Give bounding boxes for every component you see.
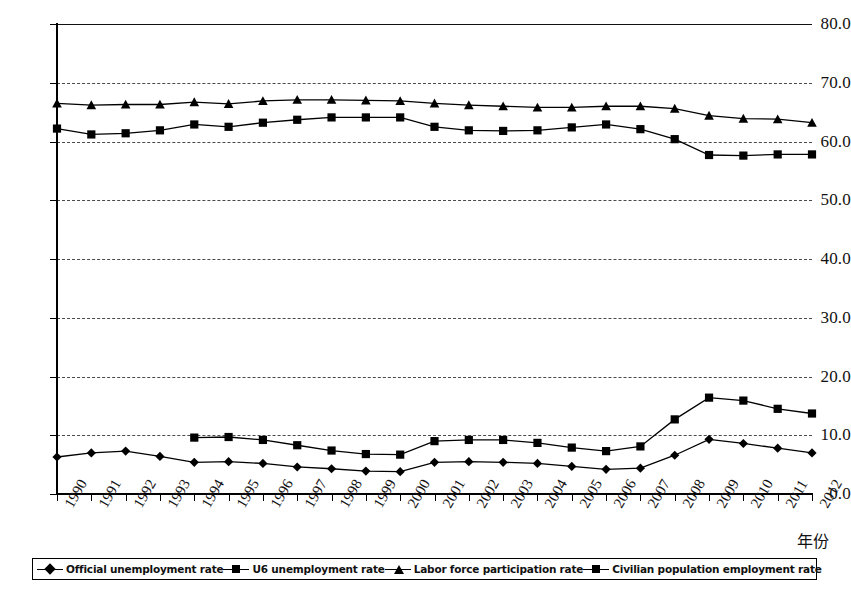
legend-item-0[interactable]: Official unemployment rate — [37, 564, 223, 575]
data-point-marker — [568, 443, 576, 451]
x-tick-mark — [675, 494, 676, 501]
x-tick-mark — [537, 494, 538, 501]
series-line — [57, 100, 812, 123]
data-point-marker — [498, 101, 508, 110]
data-point-marker — [327, 464, 336, 473]
legend-item-3[interactable]: Civilian population employment rate — [583, 564, 821, 575]
data-point-marker — [258, 459, 267, 468]
legend-label: Official unemployment rate — [66, 564, 223, 575]
y-tick-label: 30.0 — [799, 309, 851, 326]
x-tick-mark — [778, 494, 779, 501]
data-point-marker — [293, 441, 301, 449]
data-point-marker — [122, 129, 130, 137]
x-tick-mark — [126, 494, 127, 501]
data-point-marker — [155, 452, 164, 461]
data-point-marker — [465, 126, 473, 134]
x-tick-mark — [194, 494, 195, 501]
data-point-marker — [121, 447, 130, 456]
data-point-marker — [430, 99, 440, 108]
series-0 — [52, 435, 816, 477]
series-1 — [190, 394, 816, 459]
data-point-marker — [292, 95, 302, 104]
data-point-marker — [670, 104, 680, 113]
data-point-marker — [533, 459, 542, 468]
gridline — [57, 377, 812, 378]
legend-item-1[interactable]: U6 unemployment rate — [223, 564, 384, 575]
legend-item-2[interactable]: Labor force participation rate — [385, 564, 584, 575]
x-tick-mark — [709, 494, 710, 501]
data-point-marker — [808, 409, 816, 417]
data-point-marker — [361, 466, 370, 475]
x-tick-mark — [57, 494, 58, 501]
x-tick-mark — [743, 494, 744, 501]
data-point-marker — [362, 113, 370, 121]
data-point-marker — [671, 415, 679, 423]
x-tick-mark — [640, 494, 641, 501]
x-tick-mark — [263, 494, 264, 501]
data-point-marker — [362, 450, 370, 458]
line-chart: 0.010.020.030.040.050.060.070.080.0 1990… — [0, 0, 851, 556]
data-point-marker — [602, 447, 610, 455]
data-point-marker — [361, 96, 371, 105]
x-tick-mark — [332, 494, 333, 501]
series-2 — [52, 95, 817, 127]
data-point-marker — [739, 439, 748, 448]
x-tick-mark — [503, 494, 504, 501]
gridline — [57, 83, 812, 84]
x-tick-mark — [297, 494, 298, 501]
x-tick-mark — [229, 494, 230, 501]
square-marker — [223, 564, 249, 575]
data-point-marker — [327, 113, 335, 121]
data-point-marker — [533, 103, 543, 112]
data-point-marker — [636, 101, 646, 110]
data-point-marker — [464, 457, 473, 466]
data-point-marker — [739, 396, 747, 404]
data-point-marker — [258, 96, 268, 105]
data-point-marker — [499, 127, 507, 135]
data-point-marker — [293, 116, 301, 124]
data-point-marker — [636, 464, 645, 473]
y-tick-label: 20.0 — [799, 368, 851, 385]
data-point-marker — [774, 150, 782, 158]
x-tick-mark — [435, 494, 436, 501]
y-tick-label: 10.0 — [799, 426, 851, 443]
data-point-marker — [567, 462, 576, 471]
data-point-marker — [396, 467, 405, 476]
data-point-marker — [533, 126, 541, 134]
gridline — [57, 318, 812, 319]
data-point-marker — [87, 100, 97, 109]
data-point-marker — [774, 405, 782, 413]
x-tick-mark — [91, 494, 92, 501]
data-point-marker — [259, 119, 267, 127]
triangle-marker — [385, 564, 411, 575]
y-tick-label: 80.0 — [799, 15, 851, 32]
diamond-marker-glyph — [44, 563, 55, 574]
y-tick-label: 40.0 — [799, 250, 851, 267]
data-point-marker — [807, 118, 817, 127]
data-point-marker — [601, 465, 610, 474]
data-point-marker — [396, 451, 404, 459]
y-axis-line — [56, 23, 58, 495]
x-tick-mark — [606, 494, 607, 501]
x-tick-mark — [812, 494, 813, 501]
data-point-marker — [87, 448, 96, 457]
data-point-marker — [87, 130, 95, 138]
data-point-marker — [465, 436, 473, 444]
series-line — [57, 117, 812, 155]
y-tick-label: 70.0 — [799, 74, 851, 91]
data-point-marker — [189, 97, 199, 106]
data-point-marker — [430, 123, 438, 131]
figure-caption — [120, 588, 740, 602]
data-point-marker — [773, 114, 783, 123]
series-line — [57, 439, 812, 471]
data-point-marker — [224, 457, 233, 466]
data-point-marker — [327, 95, 337, 104]
data-point-marker — [601, 101, 611, 110]
legend-label: Civilian population employment rate — [612, 564, 821, 575]
series-3 — [53, 113, 816, 159]
data-point-marker — [156, 126, 164, 134]
data-point-marker — [430, 437, 438, 445]
data-point-marker — [705, 394, 713, 402]
data-point-marker — [602, 120, 610, 128]
gridline — [57, 142, 812, 143]
